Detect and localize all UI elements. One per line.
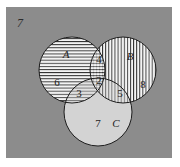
venn-set-label-c: C [112,118,119,129]
venn-count-b-and-c: 5 [117,88,123,99]
venn-count-a-and-c: 3 [76,88,82,99]
venn-diagram-figure: 7 [0,0,180,167]
venn-set-label-a: A [63,49,70,60]
venn-count-a-and-b: 4 [96,54,102,65]
venn-count-a-only: 6 [54,77,60,88]
venn-svg [6,7,172,158]
venn-count-a-b-and-c: 2 [96,75,102,86]
figure-panel: 7 [6,7,172,158]
venn-set-label-b: B [127,51,134,62]
venn-count-b-only: 8 [140,79,146,90]
venn-count-c-only: 7 [95,118,101,129]
